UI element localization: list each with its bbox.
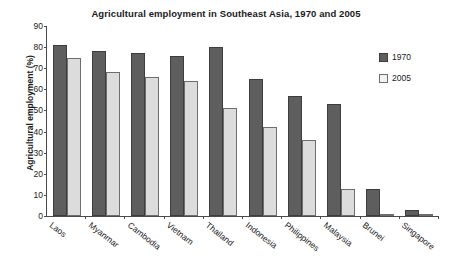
bar-2005-vietnam — [184, 81, 198, 216]
bar-1970-vietnam — [170, 56, 184, 216]
legend-label: 1970 — [392, 52, 411, 62]
y-axis-tick-label: 0 — [21, 211, 43, 221]
bar-1970-brunei — [366, 189, 380, 216]
legend-item-2005: 2005 — [379, 73, 411, 83]
x-axis-label-vietnam: Vietnam — [165, 220, 196, 247]
y-axis-tick-label: 80 — [21, 42, 43, 52]
y-axis-tick-label: 20 — [21, 169, 43, 179]
y-axis-tick-label: 40 — [21, 127, 43, 137]
x-axis-label-malaysia: Malaysia — [322, 220, 355, 249]
legend-swatch-icon — [379, 74, 388, 83]
x-axis-tick-mark — [164, 216, 165, 219]
legend-label: 2005 — [392, 73, 411, 83]
bar-chart: Agricultural employment in Southeast Asi… — [0, 0, 452, 273]
y-axis-tick-label: 10 — [21, 190, 43, 200]
y-axis-tick-label: 30 — [21, 148, 43, 158]
bar-2005-philippines — [302, 140, 316, 216]
x-axis-tick-mark — [438, 216, 439, 219]
y-axis-tick-label: 90 — [21, 21, 43, 31]
bar-group — [165, 26, 204, 216]
bar-1970-thailand — [209, 47, 223, 216]
bar-group — [47, 26, 86, 216]
bar-group — [86, 26, 125, 216]
bar-group — [243, 26, 282, 216]
bar-2005-laos — [67, 58, 81, 216]
bar-1970-laos — [53, 45, 67, 216]
x-axis-tick-mark — [360, 216, 361, 219]
x-axis-labels: LaosMyanmarCambodiaVietnamThailandIndone… — [46, 216, 438, 272]
x-axis-label-indonesia: Indonesia — [243, 220, 278, 251]
legend-item-1970: 1970 — [379, 52, 411, 62]
bar-1970-malaysia — [327, 104, 341, 216]
y-axis-tick-label: 60 — [21, 84, 43, 94]
x-axis-label-laos: Laos — [47, 220, 68, 239]
x-axis-tick-mark — [203, 216, 204, 219]
x-axis-label-myanmar: Myanmar — [87, 220, 121, 250]
y-axis-tick-label: 50 — [21, 105, 43, 115]
x-axis-label-philippines: Philippines — [283, 220, 322, 253]
x-axis-label-thailand: Thailand — [204, 220, 236, 248]
y-axis-tick-label: 70 — [21, 63, 43, 73]
x-axis-tick-mark — [320, 216, 321, 219]
bar-1970-indonesia — [249, 79, 263, 216]
x-axis-label-brunei: Brunei — [361, 220, 387, 243]
chart-legend: 19702005 — [379, 52, 411, 94]
x-axis-label-singapore: Singapore — [400, 220, 437, 252]
bar-2005-myanmar — [106, 72, 120, 216]
bar-2005-indonesia — [263, 127, 277, 216]
bar-1970-cambodia — [131, 53, 145, 216]
x-axis-tick-mark — [85, 216, 86, 219]
bar-1970-myanmar — [92, 51, 106, 216]
bar-1970-philippines — [288, 96, 302, 216]
legend-swatch-icon — [379, 53, 388, 62]
bar-2005-thailand — [223, 108, 237, 216]
bar-group — [321, 26, 360, 216]
x-axis-tick-mark — [399, 216, 400, 219]
chart-title: Agricultural employment in Southeast Asi… — [0, 8, 452, 19]
x-axis-tick-mark — [124, 216, 125, 219]
bar-group — [204, 26, 243, 216]
bar-group — [125, 26, 164, 216]
bar-2005-cambodia — [145, 77, 159, 216]
bar-group — [282, 26, 321, 216]
x-axis-label-cambodia: Cambodia — [126, 220, 163, 252]
bar-2005-malaysia — [341, 189, 355, 216]
x-axis-tick-mark — [242, 216, 243, 219]
x-axis-tick-mark — [281, 216, 282, 219]
